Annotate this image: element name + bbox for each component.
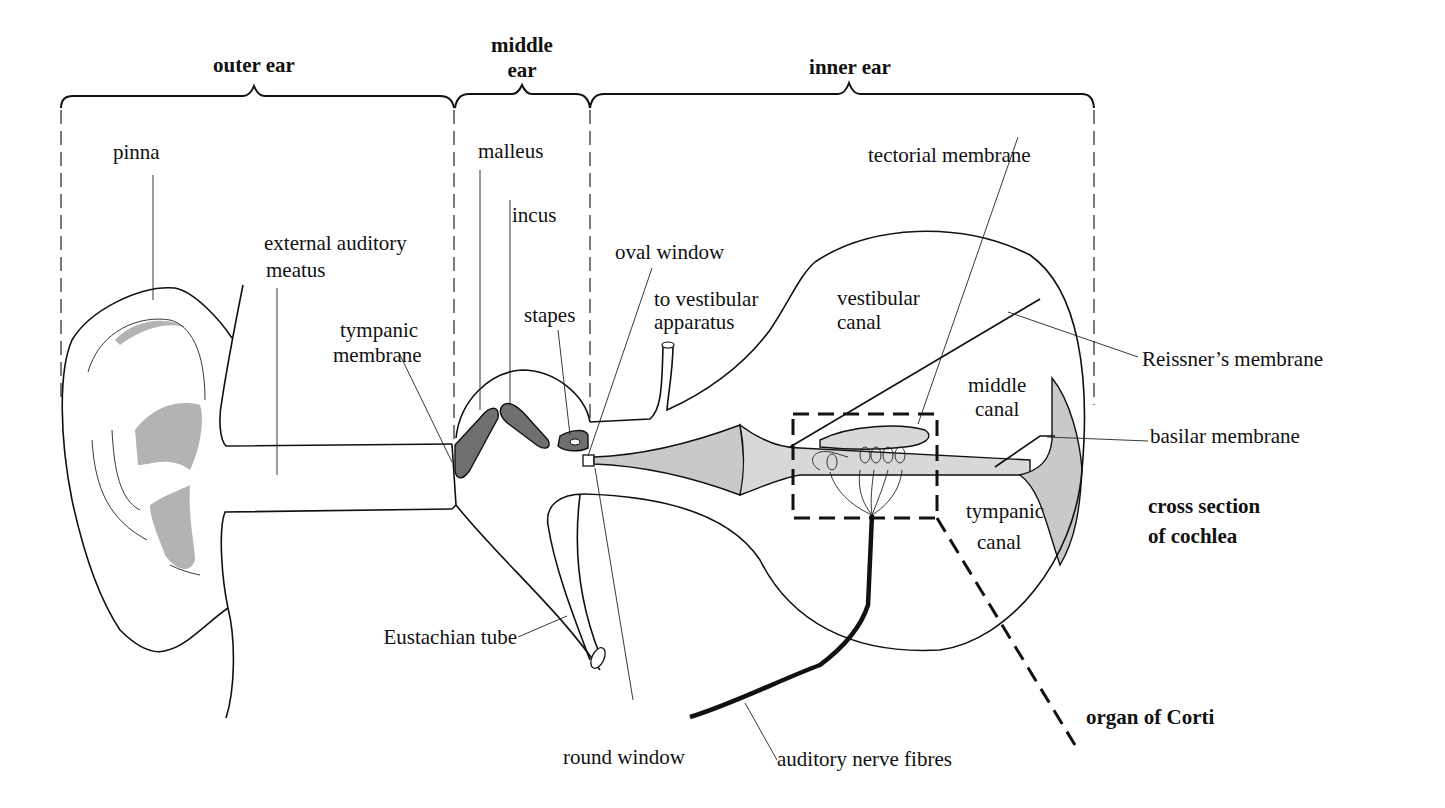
label-round-window: round window [563,745,686,769]
tympanic-pointer [400,355,452,462]
pinna-helix-inner [88,319,205,400]
label-basilar-membrane: basilar membrane [1150,424,1300,448]
pinna-outline [62,288,232,652]
label-to-vestibular-line1: to vestibular [654,287,758,311]
header-middle-ear-line2: ear [507,58,536,82]
oval-window-square [583,455,594,466]
ear-anatomy-diagram: outer ear middle ear inner ear [0,0,1445,808]
cochlea-drawing [584,137,1148,760]
label-external-auditory-line2: meatus [266,258,325,282]
section-headers: outer ear middle ear inner ear [213,33,891,82]
stapes-hole [570,439,580,445]
label-middle-canal-line2: canal [975,397,1019,421]
label-tympanic-canal-line2: canal [977,530,1021,554]
brace-outer-ear [61,86,454,108]
label-stapes: stapes [524,303,575,327]
header-outer-ear: outer ear [213,53,295,77]
pinna-shade-lobe [150,485,195,569]
label-eustachian-tube: Eustachian tube [383,625,517,649]
label-organ-of-corti: organ of Corti [1086,705,1214,729]
label-incus: incus [512,203,556,227]
label-to-vestibular-line2: apparatus [654,310,734,334]
pinna-shade-upper [115,321,190,345]
section-braces [61,83,1094,108]
stapes-pointer [558,330,570,435]
label-tympanic-canal-line1: tympanic [966,499,1044,523]
label-vestibular-canal-line1: vestibular [837,286,920,310]
tectorial-membrane-shape [820,426,929,449]
eustachian-tube-opening [588,645,608,670]
label-pinna: pinna [113,140,160,164]
label-middle-canal-line1: middle [968,373,1026,397]
brace-inner-ear [590,83,1094,108]
oval-window-pointer [588,268,652,456]
vestibular-tube-opening [662,342,674,348]
perilymph-cone [594,425,744,495]
auditory-nerve [690,515,872,717]
eustachian-pointer [518,616,567,637]
label-tectorial-membrane: tectorial membrane [868,143,1031,167]
pinna-shade-concha [135,403,202,470]
label-oval-window: oval window [615,240,725,264]
label-auditory-nerve: auditory nerve fibres [777,747,952,771]
pinna-antihelix-2 [112,430,140,510]
label-tympanic-membrane-line1: tympanic [340,318,418,342]
eustachian-tube [518,494,608,671]
label-external-auditory-line1: external auditory [264,231,407,255]
label-cross-section-line2: of cochlea [1148,524,1238,548]
reissners-pointer [1008,312,1138,357]
spiral-ligament [1020,378,1082,565]
label-malleus: malleus [478,139,543,163]
nerve-fan [830,470,902,515]
auditory-nerve-pointer [745,703,777,760]
incus-bone [500,403,549,448]
header-middle-ear-line1: middle [491,33,553,57]
malleus-bone [455,408,498,478]
brace-middle-ear [455,85,590,108]
label-vestibular-canal-line2: canal [837,310,881,334]
neck-contour [221,509,452,718]
label-tympanic-membrane-line2: membrane [333,343,422,367]
label-reissners-membrane: Reissner’s membrane [1142,347,1323,371]
vestibular-apparatus-tube [590,262,815,422]
label-cross-section-line1: cross section [1148,494,1260,518]
header-inner-ear: inner ear [809,55,891,79]
